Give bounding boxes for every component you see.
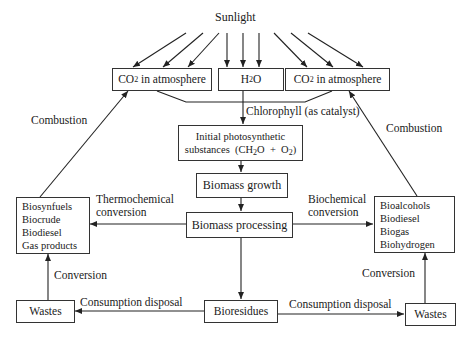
product-item: Biocrude — [22, 213, 77, 226]
product-item: Biohydrogen — [380, 238, 435, 251]
thermochemical-label-2: conversion — [96, 206, 146, 219]
biomass-growth-node: Biomass growth — [196, 173, 288, 198]
biochemical-label-2: conversion — [308, 206, 358, 219]
product-item: Biodiesel — [22, 226, 77, 239]
wastes-left-node: Wastes — [16, 300, 75, 323]
combustion-left-arrow — [40, 91, 128, 197]
chlorophyll-label: Chlorophyll (as catalyst) — [246, 105, 360, 118]
sunlight-ray-2 — [163, 33, 203, 67]
biochemical-label-1: Biochemical — [308, 193, 366, 206]
co2-left-node: CO2 in atmosphere — [112, 68, 212, 91]
funnel-connector — [157, 91, 332, 102]
co2-right-prefix: CO — [294, 73, 310, 86]
co2-right-suffix: in atmosphere — [314, 73, 382, 86]
disposal-left-label: Consumption disposal — [80, 296, 183, 309]
disposal-right-label: Consumption disposal — [289, 298, 392, 311]
initial-line2: substances (CH2O + O2) — [185, 143, 296, 156]
co2-left-prefix: CO — [118, 73, 134, 86]
sunlight-ray-3 — [188, 33, 219, 67]
conversion-left-label: Conversion — [54, 269, 107, 282]
h2o-suffix: O — [253, 73, 261, 86]
thermochemical-products-node: Biosynfuels Biocrude Biodiesel Gas produ… — [16, 197, 90, 254]
sunlight-label: Sunlight — [215, 11, 256, 24]
product-item: Biodiesel — [380, 212, 435, 225]
biochemical-products-node: Bioalcohols Biodiesel Biogas Biohydrogen — [374, 196, 455, 253]
biomass-processing-node: Biomass processing — [186, 212, 293, 238]
product-item: Gas products — [22, 239, 77, 252]
product-item: Biogas — [380, 225, 435, 238]
thermochemical-label-1: Thermochemical — [96, 193, 174, 206]
sunlight-ray-1 — [133, 33, 186, 67]
initial-line1: Initial photosynthetic — [196, 130, 286, 143]
co2-right-node: CO2 in atmosphere — [285, 68, 390, 91]
h2o-prefix: H — [241, 73, 249, 86]
product-item: Biosynfuels — [22, 200, 77, 213]
wastes-right-node: Wastes — [405, 303, 456, 326]
h2o-node: H2O — [218, 68, 284, 91]
sunlight-ray-8 — [291, 33, 333, 67]
bioresidues-node: Bioresidues — [204, 300, 278, 323]
co2-left-suffix: in atmosphere — [138, 73, 206, 86]
connector-layer — [0, 0, 467, 338]
conversion-right-label: Conversion — [362, 267, 415, 280]
initial-substances-node: Initial photosynthetic substances (CH2O … — [178, 125, 303, 161]
sunlight-ray-9 — [308, 33, 363, 67]
sunlight-ray-7 — [274, 33, 307, 67]
product-item: Bioalcohols — [380, 199, 435, 212]
combustion-left-label: Combustion — [31, 114, 87, 127]
combustion-right-label: Combustion — [386, 122, 442, 135]
